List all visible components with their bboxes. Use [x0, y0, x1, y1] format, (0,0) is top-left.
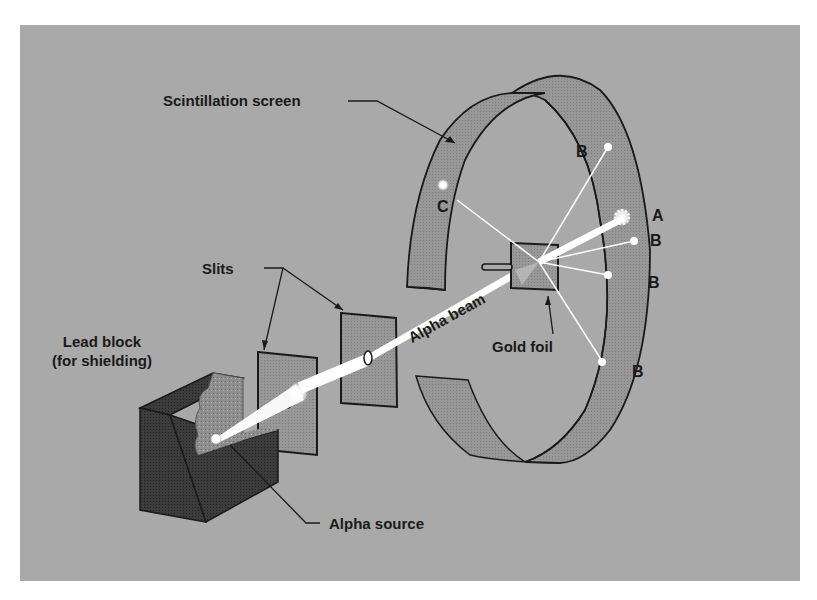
- label-lead-block: Lead block (for shielding): [52, 333, 152, 371]
- label-scintillation-screen: Scintillation screen: [163, 93, 301, 108]
- label-alpha-source: Alpha source: [329, 516, 424, 531]
- arrowheads: [262, 136, 551, 350]
- experiment-illustration: [0, 0, 817, 600]
- label-gold-foil: Gold foil: [492, 339, 553, 354]
- label-lead-block-line2: (for shielding): [52, 352, 152, 371]
- marker-b-top: B: [576, 144, 588, 160]
- marker-b-right-2: B: [648, 275, 660, 291]
- label-slits: Slits: [202, 261, 234, 276]
- marker-a: A: [652, 208, 664, 224]
- marker-c: C: [437, 199, 449, 215]
- label-lead-block-line1: Lead block: [52, 333, 152, 352]
- marker-b-right-1: B: [650, 233, 662, 249]
- marker-b-bottom: B: [632, 364, 644, 380]
